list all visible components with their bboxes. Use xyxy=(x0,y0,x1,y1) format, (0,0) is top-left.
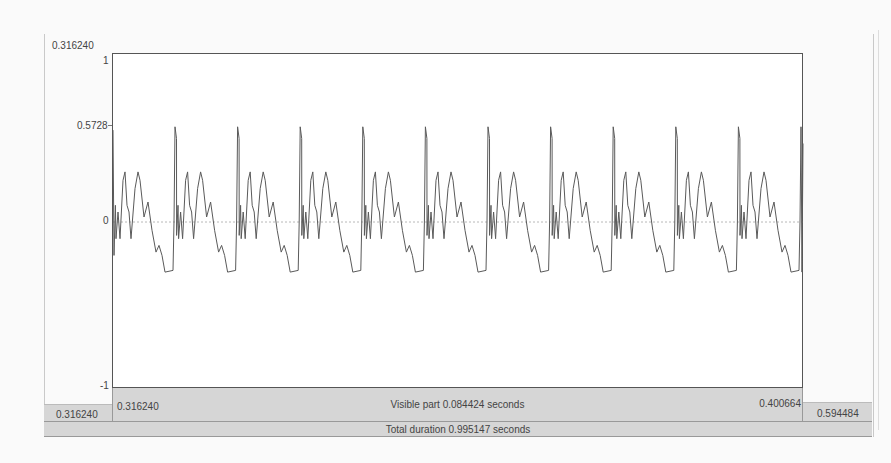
y-axis-marker-label: 0.5728 xyxy=(77,120,108,131)
total-duration-label: Total duration 0.995147 seconds xyxy=(44,424,872,435)
y-axis-min-label: -1 xyxy=(100,380,109,391)
total-duration-bar[interactable]: Total duration 0.995147 seconds xyxy=(44,421,872,437)
waveform-plot[interactable] xyxy=(112,53,803,388)
cursor-time-label: 0.316240 xyxy=(52,40,94,51)
visible-part-bar[interactable]: 0.316240 Visible part 0.084424 seconds 0… xyxy=(112,388,803,421)
y-axis-zero-label: 0 xyxy=(103,215,109,226)
y-axis-max-label: 1 xyxy=(103,55,109,66)
total-start-label: 0.316240 xyxy=(56,409,98,420)
visible-end-label: 0.400664 xyxy=(759,398,801,409)
total-start-cell[interactable]: 0.316240 xyxy=(44,404,112,421)
waveform-svg xyxy=(113,54,804,389)
window-edge xyxy=(878,30,879,430)
total-end-cell[interactable]: 0.594484 xyxy=(803,402,872,421)
waveform-trace xyxy=(113,127,803,272)
total-end-label: 0.594484 xyxy=(817,408,859,419)
visible-part-label: Visible part 0.084424 seconds xyxy=(113,399,802,410)
